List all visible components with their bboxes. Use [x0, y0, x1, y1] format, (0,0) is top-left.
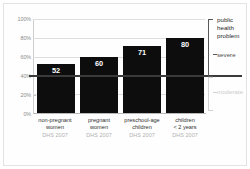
y-tick-label-80: 80% — [3, 35, 31, 41]
y-tick-label-0: 0% — [3, 111, 31, 117]
x-label-line2: < 2 years — [173, 124, 196, 130]
legend-title: public health problem — [217, 16, 249, 41]
y-tick-label-20: 20% — [3, 92, 31, 98]
bar-value-label: 80 — [166, 41, 204, 49]
x-label-line1: children — [175, 117, 195, 123]
bar-pregnant-women[interactable]: 60 — [80, 57, 118, 113]
x-label-line1: non-pregnant — [38, 117, 71, 123]
legend-title-line2: health — [217, 24, 234, 31]
x-label-preschool-age-children: preschool-age children DHS 2007 — [118, 117, 166, 139]
severity-legend: public health problem severe moderate — [206, 16, 248, 116]
bar-value-label: 60 — [80, 60, 118, 68]
bar-value-label: 52 — [37, 67, 75, 75]
x-label-source: DHS 2007 — [31, 132, 79, 139]
bar-value-label: 71 — [123, 49, 161, 57]
x-label-line2: women — [46, 124, 64, 130]
x-label-source: DHS 2007 — [75, 132, 123, 139]
chart-screenshot: 100% 80% 60% 40% 20% 0% 52 60 71 80 — [0, 0, 250, 169]
x-label-children-under-2-years: children < 2 years DHS 2007 — [161, 117, 209, 139]
x-label-line1: preschool-age — [124, 117, 159, 123]
legend-title-line3: problem — [217, 32, 239, 39]
x-label-line2: children — [132, 124, 152, 130]
legend-label-moderate: moderate — [217, 88, 243, 96]
y-tick-label-60: 60% — [3, 54, 31, 60]
plot-area: 52 60 71 80 — [33, 19, 205, 113]
y-tick-label-100: 100% — [3, 16, 31, 22]
y-tick-label-40: 40% — [3, 73, 31, 79]
x-axis-labels: non-pregnant women DHS 2007 pregnant wom… — [33, 117, 206, 157]
x-label-line1: pregnant — [88, 117, 110, 123]
y-axis: 100% 80% 60% 40% 20% 0% — [0, 19, 31, 114]
x-label-line2: women — [90, 124, 108, 130]
x-label-source: DHS 2007 — [118, 132, 166, 139]
x-label-non-pregnant-women: non-pregnant women DHS 2007 — [31, 117, 79, 139]
x-label-pregnant-women: pregnant women DHS 2007 — [75, 117, 123, 139]
legend-title-line1: public — [217, 16, 233, 23]
bar-non-pregnant-women[interactable]: 52 — [37, 64, 75, 113]
x-axis-line — [33, 113, 206, 114]
gridline-100 — [33, 19, 205, 20]
legend-label-severe: severe — [217, 51, 236, 59]
x-label-source: DHS 2007 — [161, 132, 209, 139]
bar-preschool-age-children[interactable]: 71 — [123, 46, 161, 113]
bracket-moderate — [208, 77, 213, 111]
bracket-severe — [208, 19, 213, 77]
